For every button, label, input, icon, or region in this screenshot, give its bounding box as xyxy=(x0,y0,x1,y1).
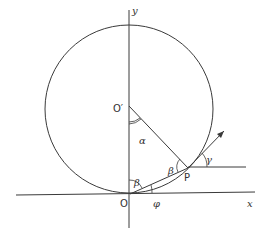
point-P-label: P xyxy=(184,172,190,183)
radius-line xyxy=(129,106,188,168)
origin-label: O xyxy=(120,198,128,209)
x-axis-label: x xyxy=(247,198,253,209)
gamma-label: γ xyxy=(206,154,212,165)
diagram-canvas: y x O O′ P α β β γ φ xyxy=(0,0,265,239)
beta-label-P: β xyxy=(167,165,174,176)
y-axis-label: y xyxy=(131,5,138,16)
beta-arc-P xyxy=(177,159,180,172)
phi-arc xyxy=(151,185,152,193)
center-label: O′ xyxy=(113,103,124,114)
phi-label: φ xyxy=(153,198,160,209)
alpha-label: α xyxy=(139,135,146,146)
beta-label-O: β xyxy=(133,177,140,188)
alpha-arc-outer xyxy=(129,119,141,124)
